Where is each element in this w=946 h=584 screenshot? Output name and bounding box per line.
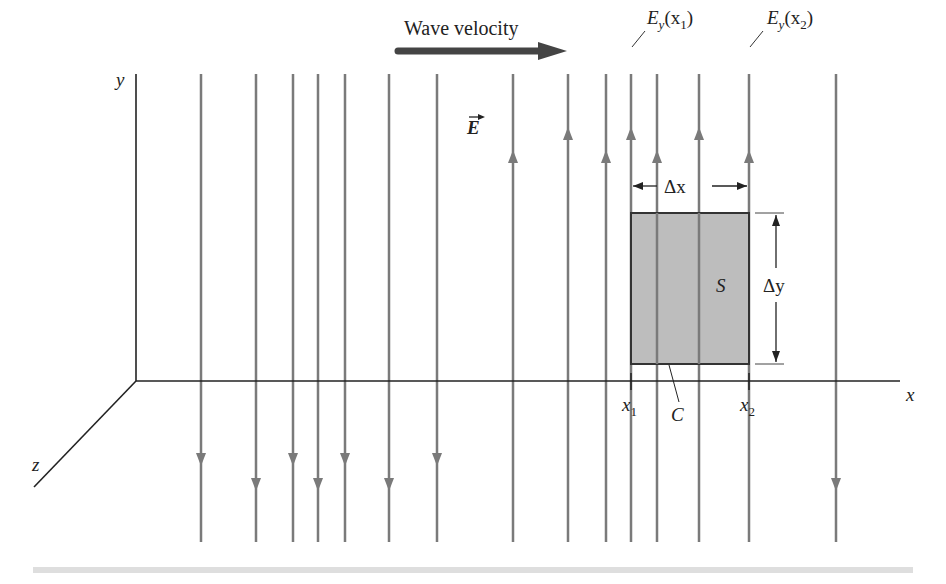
arrow-up-icon [601,150,611,163]
dy-arrowhead-top [772,215,780,226]
arrow-up-icon [626,127,636,140]
arrow-down-icon [340,453,350,466]
surface-label: S [716,275,726,296]
field-vector-label: E [466,117,480,138]
arrow-up-icon [563,127,573,140]
arrow-down-icon [288,453,298,466]
wave-velocity-label: Wave velocity [404,17,518,40]
ey-x2-label: Ey(x2) [766,7,813,32]
wave-field-diagram: Δx Δy S C x1 x2 x y z E Wave velocity Ey… [0,0,946,584]
z-axis [34,381,136,487]
x-axis-label: x [905,384,915,405]
contour-label: C [671,404,684,425]
x1-label: x1 [621,394,637,419]
bottom-rule [33,567,913,573]
arrow-up-icon [744,150,754,163]
dy-arrowhead-bottom [772,351,780,362]
ey2-leader [750,31,763,47]
y-axis-label: y [114,69,125,90]
arrow-down-icon [432,453,442,466]
arrow-up-icon [508,150,518,163]
surface-s [631,213,749,364]
arrow-up-icon [694,127,704,140]
arrow-down-icon [251,478,261,491]
ey-x1-label: Ey(x1) [646,7,693,32]
ey1-leader [632,31,645,47]
arrow-down-icon [384,478,394,491]
arrow-up-icon [652,150,662,163]
dy-label: Δy [763,275,785,296]
wave-velocity-arrowhead-icon [538,42,567,60]
dx-arrowhead-left [633,182,643,190]
x2-label: x2 [739,394,755,419]
arrow-down-icon [196,453,206,466]
dx-label: Δx [664,176,686,197]
contour-leader [669,365,679,402]
arrow-down-icon [313,478,323,491]
dx-arrowhead-right [737,182,747,190]
arrow-down-icon [831,478,841,491]
z-axis-label: z [31,454,40,475]
